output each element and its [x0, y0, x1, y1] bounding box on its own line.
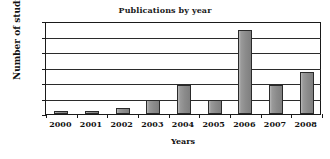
bar	[54, 111, 68, 114]
bar-slot	[291, 22, 322, 114]
bar-slot	[138, 22, 169, 114]
x-tick-mark	[230, 114, 231, 118]
x-tick-mark	[322, 114, 323, 118]
bar	[177, 85, 191, 114]
x-tick-mark	[107, 114, 108, 118]
x-tick-mark	[261, 114, 262, 118]
bar	[146, 100, 160, 114]
x-axis-tick-labels: 200020012002200320042005200620072008	[45, 119, 321, 131]
bar-slot	[199, 22, 230, 114]
chart-title: Publications by year	[0, 5, 330, 15]
bar	[238, 30, 252, 114]
bar-slot	[77, 22, 108, 114]
x-tick-label: 2008	[286, 119, 326, 129]
x-tick-mark	[169, 114, 170, 118]
bar	[269, 85, 283, 114]
bar-slot	[261, 22, 292, 114]
y-axis-title: Number of studies	[12, 0, 22, 80]
bar-slot	[107, 22, 138, 114]
x-tick-mark	[199, 114, 200, 118]
plot-area: 0102030405060	[45, 22, 321, 115]
x-axis-title: Years	[45, 136, 321, 146]
x-tick-mark	[291, 114, 292, 118]
bar	[300, 72, 314, 114]
chart-figure: Publications by year Number of studies 0…	[0, 0, 330, 159]
bar-slot	[169, 22, 200, 114]
bar-slot	[46, 22, 77, 114]
bar	[208, 100, 222, 114]
bar	[85, 111, 99, 114]
bar	[116, 108, 130, 114]
bar-slot	[230, 22, 261, 114]
x-tick-mark	[46, 114, 47, 118]
x-tick-mark	[138, 114, 139, 118]
x-tick-mark	[77, 114, 78, 118]
